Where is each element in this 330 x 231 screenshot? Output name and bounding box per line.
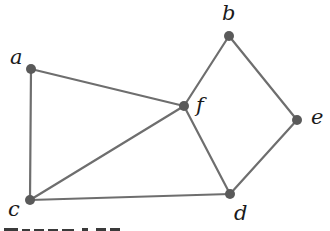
graph-diagram: abcdef: [0, 0, 330, 231]
node-label-e: e: [311, 105, 323, 129]
edge-c-f: [30, 106, 184, 200]
edge-f-b: [184, 36, 229, 106]
edge-f-d: [184, 106, 230, 194]
edge-b-e: [229, 36, 297, 120]
edge-a-c: [30, 69, 31, 200]
node-d: [225, 189, 235, 199]
labels-group: abcdef: [8, 1, 323, 225]
node-label-d: d: [234, 201, 247, 225]
edge-a-f: [31, 69, 184, 106]
edge-e-d: [230, 120, 297, 194]
caption-fragment: [4, 228, 120, 231]
node-label-c: c: [8, 197, 20, 221]
node-e: [292, 115, 302, 125]
node-a: [26, 64, 36, 74]
edges-group: [30, 36, 297, 200]
node-c: [25, 195, 35, 205]
node-b: [224, 31, 234, 41]
edge-c-d: [30, 194, 230, 200]
node-label-a: a: [10, 45, 23, 69]
node-label-f: f: [194, 93, 207, 117]
node-f: [179, 101, 189, 111]
node-label-b: b: [222, 1, 235, 25]
